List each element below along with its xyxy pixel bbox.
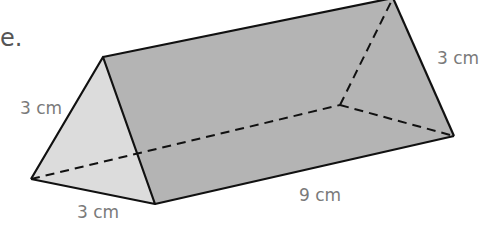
text-fragment: e. bbox=[0, 26, 22, 50]
diagram-canvas: e. 3 cm 3 cm 9 cm 3 cm bbox=[0, 0, 485, 226]
label-front-bottom-edge: 3 cm bbox=[77, 204, 119, 221]
label-length-edge: 9 cm bbox=[299, 187, 341, 204]
label-front-left-edge: 3 cm bbox=[20, 100, 62, 117]
label-back-right-edge: 3 cm bbox=[437, 50, 479, 67]
side-face bbox=[103, 0, 454, 204]
prism-drawing bbox=[0, 0, 485, 226]
